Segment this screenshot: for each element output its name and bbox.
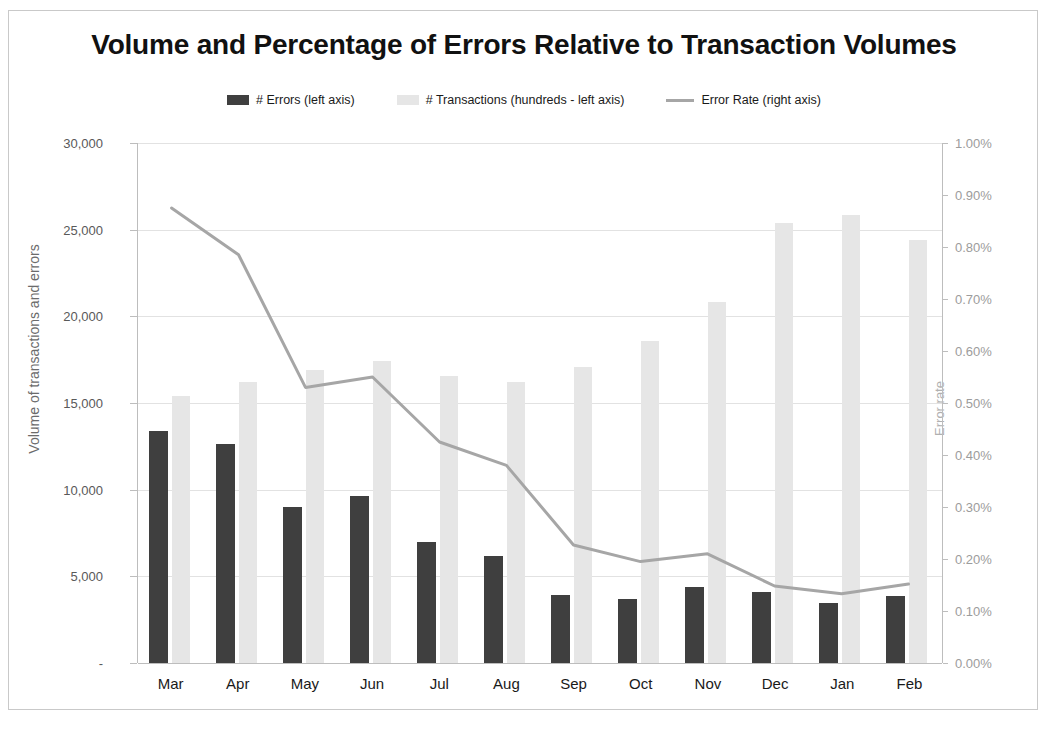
x-axis-tick-label: Oct <box>607 675 674 692</box>
x-axis-tick-label: Feb <box>876 675 943 692</box>
y-axis-tick-label: 15,000 <box>13 396 103 411</box>
y2-axis-tick-mark <box>943 507 948 508</box>
y2-axis-tick-label: 0.70% <box>955 292 1035 307</box>
plot-area <box>137 143 943 663</box>
y-axis-tick-label: - <box>13 656 103 671</box>
error-rate-polyline <box>172 208 909 594</box>
y-axis-tick-mark <box>130 316 137 317</box>
y2-axis-tick-label: 0.30% <box>955 500 1035 515</box>
legend-swatch-errors-icon <box>227 95 249 105</box>
legend-item-errors[interactable]: # Errors (left axis) <box>227 93 355 107</box>
y2-axis-tick-label: 1.00% <box>955 136 1035 151</box>
x-axis-tick-label: Mar <box>137 675 204 692</box>
x-axis-tick-label: Apr <box>204 675 271 692</box>
x-axis-tick-label: Jul <box>406 675 473 692</box>
chart-legend: # Errors (left axis) # Transactions (hun… <box>9 93 1039 107</box>
y2-axis-tick-label: 0.40% <box>955 448 1035 463</box>
y2-axis-tick-mark <box>943 143 948 144</box>
y2-axis-tick-mark <box>943 247 948 248</box>
y2-axis-tick-mark <box>943 559 948 560</box>
y-axis-tick-mark <box>130 403 137 404</box>
x-axis-tick-label: Nov <box>674 675 741 692</box>
y2-axis-tick-mark <box>943 663 948 664</box>
y-axis-tick-mark <box>130 230 137 231</box>
x-axis-tick-label: May <box>271 675 338 692</box>
legend-item-transactions[interactable]: # Transactions (hundreds - left axis) <box>397 93 625 107</box>
y2-axis-tick-label: 0.50% <box>955 396 1035 411</box>
y2-axis-tick-label: 0.10% <box>955 604 1035 619</box>
y-axis-tick-mark <box>130 663 137 664</box>
y2-axis-tick-mark <box>943 299 948 300</box>
x-axis-labels: MarAprMayJunJulAugSepOctNovDecJanFeb <box>137 675 943 692</box>
legend-label-transactions: # Transactions (hundreds - left axis) <box>426 93 625 107</box>
y-axis-tick-label: 10,000 <box>13 482 103 497</box>
y-axis-tick-label: 5,000 <box>13 569 103 584</box>
y-axis-tick-mark <box>130 490 137 491</box>
legend-item-error-rate[interactable]: Error Rate (right axis) <box>666 93 820 107</box>
y2-axis-tick-mark <box>943 455 948 456</box>
error-rate-line <box>138 143 942 663</box>
y2-axis-tick-mark <box>943 195 948 196</box>
y2-axis-tick-label: 0.80% <box>955 240 1035 255</box>
y-axis-tick-label: 20,000 <box>13 309 103 324</box>
x-axis-tick-label: Sep <box>540 675 607 692</box>
legend-label-error-rate: Error Rate (right axis) <box>701 93 820 107</box>
y-axis-tick-mark <box>130 143 137 144</box>
y-axis-tick-label: 30,000 <box>13 136 103 151</box>
y-axis-tick-label: 25,000 <box>13 222 103 237</box>
y-axis-label: Volume of transactions and errors <box>26 114 42 584</box>
y-axis-tick-mark <box>130 576 137 577</box>
y2-axis-tick-mark <box>943 611 948 612</box>
y2-axis-tick-label: 0.90% <box>955 188 1035 203</box>
x-axis-tick-label: Aug <box>473 675 540 692</box>
legend-swatch-transactions-icon <box>397 95 419 105</box>
y2-axis-tick-mark <box>943 403 948 404</box>
x-axis-tick-label: Jan <box>809 675 876 692</box>
y2-axis-tick-mark <box>943 351 948 352</box>
x-axis-tick-label: Jun <box>339 675 406 692</box>
gridline <box>138 663 942 664</box>
chart-frame: Volume and Percentage of Errors Relative… <box>8 10 1038 710</box>
legend-swatch-error-rate-icon <box>666 99 694 102</box>
x-axis-tick-label: Dec <box>742 675 809 692</box>
y2-axis-tick-label: 0.60% <box>955 344 1035 359</box>
y2-axis-tick-label: 0.00% <box>955 656 1035 671</box>
chart-title: Volume and Percentage of Errors Relative… <box>9 29 1039 61</box>
y2-axis-tick-label: 0.20% <box>955 552 1035 567</box>
legend-label-errors: # Errors (left axis) <box>256 93 355 107</box>
